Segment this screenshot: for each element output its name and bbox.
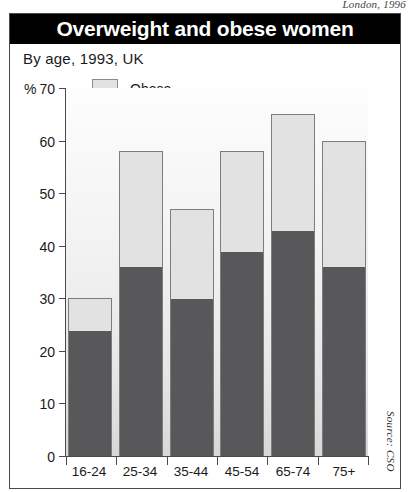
y-tick-label-20: 20 bbox=[39, 344, 55, 360]
y-tick-label-60: 60 bbox=[39, 134, 55, 150]
bar-group-35-44[interactable] bbox=[170, 88, 214, 456]
x-axis-label-25-34: 25-34 bbox=[118, 464, 162, 479]
plot-area: 010203040506070 16-2425-3435-4445-5465-7… bbox=[57, 88, 380, 469]
x-axis-label-45-54: 45-54 bbox=[220, 464, 264, 479]
y-tick-50: 50 bbox=[59, 193, 66, 194]
chart-card-body: By age, 1993, UK Obese Overweight % 0102… bbox=[10, 44, 400, 488]
bar-segment-overweight-16-24[interactable] bbox=[69, 331, 111, 456]
y-tick-label-30: 30 bbox=[39, 291, 55, 307]
page-credit: London, 1996 bbox=[342, 0, 406, 10]
bar-stack-16-24[interactable] bbox=[68, 298, 112, 456]
y-tick-label-40: 40 bbox=[39, 239, 55, 255]
chart-subtitle: By age, 1993, UK bbox=[23, 50, 144, 67]
y-tick-70: 70 bbox=[59, 88, 66, 89]
y-tick-40: 40 bbox=[59, 246, 66, 247]
chart-figure: Overweight and obese women By age, 1993,… bbox=[9, 13, 401, 489]
bar-segment-overweight-45-54[interactable] bbox=[221, 252, 263, 456]
bar-group-65-74[interactable] bbox=[271, 88, 315, 456]
bar-stack-65-74[interactable] bbox=[271, 114, 315, 456]
bar-segment-overweight-65-74[interactable] bbox=[272, 231, 314, 456]
bar-group-75+[interactable] bbox=[322, 88, 366, 456]
bar-group-45-54[interactable] bbox=[220, 88, 264, 456]
x-axis-label-16-24: 16-24 bbox=[67, 464, 111, 479]
x-axis-label-65-74: 65-74 bbox=[271, 464, 315, 479]
bar-stack-25-34[interactable] bbox=[119, 151, 163, 456]
bar-stack-35-44[interactable] bbox=[170, 209, 214, 456]
x-axis-label-35-44: 35-44 bbox=[169, 464, 213, 479]
x-axis-label-75+: 75+ bbox=[322, 464, 366, 479]
chart-title-banner: Overweight and obese women bbox=[10, 14, 400, 44]
plot-inner: 010203040506070 bbox=[65, 88, 368, 457]
y-tick-label-0: 0 bbox=[47, 449, 55, 465]
bar-segment-overweight-35-44[interactable] bbox=[171, 299, 213, 456]
bar-group-25-34[interactable] bbox=[119, 88, 163, 456]
x-axis-labels: 16-2425-3435-4445-5465-7475+ bbox=[65, 464, 368, 479]
bar-segment-overweight-75+[interactable] bbox=[323, 267, 365, 456]
y-tick-label-70: 70 bbox=[39, 81, 55, 97]
bar-stack-75+[interactable] bbox=[322, 141, 366, 456]
y-tick-0: 0 bbox=[59, 456, 66, 457]
x-tick-6 bbox=[368, 456, 369, 465]
y-tick-60: 60 bbox=[59, 141, 66, 142]
y-tick-10: 10 bbox=[59, 403, 66, 404]
bar-segment-overweight-25-34[interactable] bbox=[120, 267, 162, 456]
bar-group-16-24[interactable] bbox=[68, 88, 112, 456]
y-axis-unit-label: % bbox=[24, 81, 36, 97]
bar-stack-45-54[interactable] bbox=[220, 151, 264, 456]
y-tick-20: 20 bbox=[59, 351, 66, 352]
y-tick-30: 30 bbox=[59, 298, 66, 299]
y-tick-label-50: 50 bbox=[39, 186, 55, 202]
page-title: Overweight and obese women bbox=[56, 17, 353, 41]
bar-series bbox=[66, 88, 368, 456]
source-note: Source: CSO bbox=[385, 411, 397, 472]
y-tick-label-10: 10 bbox=[39, 396, 55, 412]
